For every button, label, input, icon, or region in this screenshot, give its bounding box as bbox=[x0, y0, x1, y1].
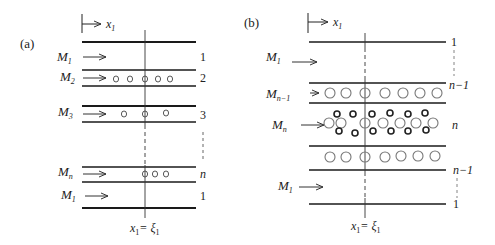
flow-arrows-b bbox=[292, 62, 324, 187]
x1-axis-marker-b: x1 bbox=[308, 13, 342, 33]
svg-text:n: n bbox=[200, 167, 206, 181]
bubbles-layer-n-light bbox=[324, 118, 438, 128]
bubbles-layer-n-minus-1-bottom bbox=[325, 151, 440, 162]
bubbles-layer-n-minus-1-top bbox=[325, 88, 442, 98]
layer-indices: 1 2 3 n 1 bbox=[200, 50, 206, 203]
svg-text:M1: M1 bbox=[277, 178, 293, 195]
svg-text:Mn: Mn bbox=[57, 164, 73, 181]
panel-a: (a) x1 bbox=[20, 14, 206, 237]
figure: (a) x1 bbox=[0, 0, 495, 245]
svg-text:M1: M1 bbox=[56, 49, 72, 66]
panel-b-label: (b) bbox=[244, 15, 259, 30]
svg-text:M1: M1 bbox=[265, 49, 281, 66]
bubbles-layer-n bbox=[142, 171, 168, 177]
section-position-label: x1= ξ1 bbox=[129, 221, 160, 237]
svg-text:Mn: Mn bbox=[271, 117, 287, 134]
svg-text:n−1: n−1 bbox=[449, 78, 469, 92]
panel-a-label: (a) bbox=[20, 36, 34, 51]
flow-arrows bbox=[83, 57, 108, 196]
svg-text:M1: M1 bbox=[60, 187, 76, 204]
svg-text:3: 3 bbox=[200, 108, 206, 122]
svg-text:1: 1 bbox=[200, 189, 206, 203]
svg-text:2: 2 bbox=[200, 71, 206, 85]
svg-text:x1: x1 bbox=[332, 15, 342, 31]
svg-text:n: n bbox=[452, 118, 458, 132]
section-position-label-b: x1= ξ1 bbox=[350, 219, 381, 235]
bubbles-layer-2 bbox=[113, 76, 172, 82]
svg-text:Mn−1: Mn−1 bbox=[265, 86, 290, 103]
svg-text:1: 1 bbox=[453, 197, 459, 211]
svg-text:1: 1 bbox=[200, 50, 206, 64]
flow-labels-b: M1 Mn−1 Mn M1 bbox=[265, 49, 293, 195]
x1-axis-marker: x1 bbox=[82, 14, 115, 33]
layer-indices-b: 1 n−1 n n−1 1 bbox=[449, 35, 473, 211]
svg-text:M2: M2 bbox=[59, 69, 75, 86]
bubbles-layer-n-dark bbox=[334, 110, 429, 136]
panel-b: (b) x1 bbox=[244, 13, 473, 235]
flow-labels: M1 M2 M3 Mn M1 bbox=[56, 49, 76, 204]
svg-text:1: 1 bbox=[451, 35, 457, 49]
svg-text:M3: M3 bbox=[57, 104, 73, 121]
channel-walls bbox=[82, 42, 196, 208]
svg-text:x1: x1 bbox=[105, 17, 115, 33]
svg-text:n−1: n−1 bbox=[453, 163, 473, 177]
